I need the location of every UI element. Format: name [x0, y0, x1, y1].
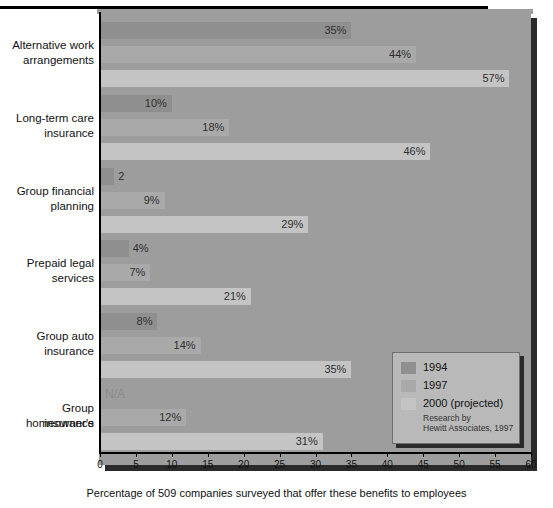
x-tick [172, 452, 173, 457]
bar: 7% [100, 264, 150, 281]
x-tick-label: 50 [454, 459, 465, 470]
legend-label: 1997 [423, 379, 447, 391]
x-tick [208, 452, 209, 457]
bar: 46% [100, 143, 430, 160]
x-tick-label: 10 [166, 459, 177, 470]
bar: 10% [100, 95, 172, 112]
bar: 21% [100, 288, 251, 305]
bar: 14% [100, 337, 201, 354]
x-tick-label: 35 [346, 459, 357, 470]
bar: 57% [100, 70, 509, 87]
category-label: insurance [2, 416, 94, 431]
x-tick [387, 452, 388, 457]
legend-label: 1994 [423, 361, 447, 373]
x-tick [244, 452, 245, 457]
x-tick-label: 5 [133, 459, 139, 470]
bar: 44% [100, 46, 416, 63]
x-tick [351, 452, 352, 457]
bar-value-label: 46% [403, 145, 425, 157]
legend-swatch [401, 362, 416, 374]
bar-value-label: 35% [324, 24, 346, 36]
x-tick [459, 452, 460, 457]
category-label: Long-term care [2, 111, 94, 126]
x-tick-label: 30 [310, 459, 321, 470]
bar: 4% [100, 240, 129, 257]
category-label: insurance [2, 126, 94, 141]
category-label: Alternative work [2, 38, 94, 53]
bar-value-label: 14% [174, 339, 196, 351]
bar-value-label: 21% [224, 290, 246, 302]
legend-label: 2000 (projected) [423, 397, 503, 409]
legend-swatch [401, 398, 416, 410]
legend-note: Research by Hewitt Associates, 1997 [423, 413, 515, 433]
legend: 199419972000 (projected) Research by Hew… [392, 352, 520, 444]
bar-value-label: 9% [144, 194, 160, 206]
bar-value-label: 4% [133, 242, 149, 254]
bar-value-label: 18% [202, 121, 224, 133]
y-axis-line [99, 12, 101, 454]
category-label: services [2, 271, 94, 286]
bar-value-label: 35% [324, 363, 346, 375]
category-label: Prepaid legal [2, 256, 94, 271]
bar-value-na: N/A [105, 387, 125, 401]
bar: 12% [100, 409, 186, 426]
category-label: insurance [2, 344, 94, 359]
chart-container: Alternative workarrangementsLong-term ca… [0, 0, 553, 508]
legend-note-line2: Hewitt Associates, 1997 [423, 423, 515, 433]
x-tick-label: 20 [238, 459, 249, 470]
x-tick-label: 45 [418, 459, 429, 470]
bar: 2 [100, 168, 114, 185]
bar-value-label: 12% [159, 411, 181, 423]
bar-value-label: 7% [129, 266, 145, 278]
x-tick-label: 40 [382, 459, 393, 470]
bar-value-label: 57% [482, 72, 504, 84]
bar: 18% [100, 119, 229, 136]
bar-value-label: 31% [296, 435, 318, 447]
x-tick-label: 60 [525, 459, 536, 470]
x-tick [423, 452, 424, 457]
x-tick [495, 452, 496, 457]
x-tick-label: 55 [490, 459, 501, 470]
x-tick-label: 25 [274, 459, 285, 470]
bar: 35% [100, 361, 351, 378]
x-tick [280, 452, 281, 457]
x-axis-label: Percentage of 509 companies surveyed tha… [0, 487, 553, 499]
bar: 31% [100, 433, 323, 450]
legend-note-line1: Research by [423, 413, 515, 423]
bar: 9% [100, 192, 165, 209]
bar: 29% [100, 216, 308, 233]
x-tick [531, 452, 532, 457]
bar: 35% [100, 22, 351, 39]
x-tick [136, 452, 137, 457]
bar-value-label: 8% [137, 315, 153, 327]
x-tick-label: 0 [97, 459, 103, 470]
bar-value-label: 29% [281, 218, 303, 230]
x-tick [100, 452, 101, 457]
bar-value-label: 2 [118, 170, 124, 182]
category-label: Group financial [2, 184, 94, 199]
bar-value-label: 10% [145, 97, 167, 109]
category-label: arrangements [2, 53, 94, 68]
x-tick-label: 15 [202, 459, 213, 470]
bar: 8% [100, 313, 157, 330]
category-label: planning [2, 199, 94, 214]
legend-swatch [401, 380, 416, 392]
x-tick [316, 452, 317, 457]
category-label: Group auto [2, 329, 94, 344]
bar-value-label: 44% [389, 48, 411, 60]
